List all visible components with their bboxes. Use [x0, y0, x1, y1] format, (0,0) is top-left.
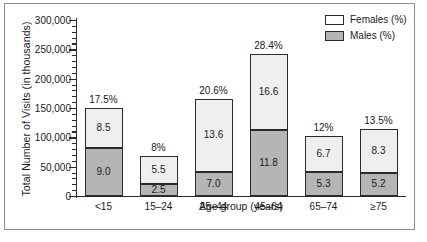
- x-axis-line: [76, 196, 406, 197]
- legend-item-label: Males (%): [350, 30, 395, 41]
- y-axis-tick-label: 100,000: [20, 132, 71, 143]
- stacked-bar[interactable]: 2.55.5: [140, 156, 178, 196]
- y-axis-minor-tick: [72, 73, 76, 74]
- y-axis-major-tick: [69, 20, 76, 21]
- y-axis-tick-label: 0: [20, 191, 71, 202]
- bar-segment-value-females: 8.5: [97, 123, 111, 133]
- y-axis-minor-tick: [72, 85, 76, 86]
- y-axis-tick-labels: 300,000250,000200,000150,000100,00050,00…: [20, 0, 71, 242]
- figure: Total Number of Visits (in thousands) 30…: [0, 0, 427, 242]
- stacked-bar[interactable]: 7.013.6: [195, 99, 233, 196]
- y-axis-tick-label: 300,000: [20, 15, 71, 26]
- bar-group: 2.55.58%: [140, 20, 178, 196]
- bar-segment-value-males: 2.5: [152, 185, 166, 195]
- y-axis-minor-tick: [72, 96, 76, 97]
- y-axis-minor-tick: [72, 161, 76, 162]
- bar-segment-males[interactable]: 7.0: [195, 172, 233, 196]
- bar-segment-value-females: 8.3: [372, 146, 386, 156]
- bar-segment-females[interactable]: 5.5: [140, 156, 178, 184]
- y-axis-minor-tick: [72, 178, 76, 179]
- y-axis-minor-tick: [72, 131, 76, 132]
- bar-total-percent-label: 17.5%: [85, 94, 123, 105]
- bar-total-percent-label: 28.4%: [250, 40, 288, 51]
- bar-segment-females[interactable]: 8.3: [360, 129, 398, 173]
- y-axis-minor-tick: [72, 55, 76, 56]
- legend-item[interactable]: Males (%): [325, 29, 411, 42]
- bar-segment-value-females: 6.7: [317, 149, 331, 159]
- y-axis-minor-tick: [72, 184, 76, 185]
- y-axis-major-tick: [69, 79, 76, 80]
- stacked-bar[interactable]: 5.28.3: [360, 129, 398, 196]
- bar-segment-males[interactable]: 5.2: [360, 173, 398, 196]
- y-axis-minor-tick: [72, 120, 76, 121]
- y-axis-major-tick: [69, 196, 76, 197]
- bar-segment-value-males: 5.3: [317, 179, 331, 189]
- y-axis-minor-tick: [72, 155, 76, 156]
- bar-segment-females[interactable]: 13.6: [195, 99, 233, 172]
- y-axis-tick-label: 50,000: [20, 161, 71, 172]
- bar-group: 5.28.313.5%: [360, 20, 398, 196]
- bar-segment-females[interactable]: 8.5: [85, 108, 123, 148]
- y-axis-major-tick: [69, 49, 76, 50]
- bar-segment-value-females: 16.6: [259, 87, 278, 97]
- y-axis-line: [76, 18, 77, 198]
- y-axis-minor-tick: [72, 43, 76, 44]
- y-axis-minor-tick: [72, 143, 76, 144]
- bar-group: 5.36.712%: [305, 20, 343, 196]
- bar-total-percent-label: 20.6%: [195, 85, 233, 96]
- bar-segment-females[interactable]: 6.7: [305, 136, 343, 172]
- bar-segment-value-males: 9.0: [97, 167, 111, 177]
- bar-total-percent-label: 13.5%: [360, 115, 398, 126]
- bar-segment-males[interactable]: 9.0: [85, 148, 123, 196]
- y-axis-minor-tick: [72, 26, 76, 27]
- stacked-bar[interactable]: 5.36.7: [305, 136, 343, 196]
- bar-total-percent-label: 8%: [140, 142, 178, 153]
- bar-segment-males[interactable]: 5.3: [305, 172, 343, 196]
- bar-group: 7.013.620.6%: [195, 20, 233, 196]
- bar-group: 11.816.628.4%: [250, 20, 288, 196]
- bar-segment-value-females: 13.6: [204, 130, 223, 140]
- y-axis-minor-tick: [72, 90, 76, 91]
- bar-group: 9.08.517.5%: [85, 20, 123, 196]
- y-axis-tick-label: 150,000: [20, 103, 71, 114]
- y-axis-minor-tick: [72, 149, 76, 150]
- bar-segment-value-females: 5.5: [152, 165, 166, 175]
- y-axis-minor-tick: [72, 61, 76, 62]
- y-axis-minor-tick: [72, 190, 76, 191]
- bar-total-percent-label: 12%: [305, 122, 343, 133]
- y-axis-tick-label: 250,000: [20, 44, 71, 55]
- y-axis-minor-tick: [72, 126, 76, 127]
- stacked-bar[interactable]: 9.08.5: [85, 108, 123, 196]
- x-axis-title: Age group (years): [76, 200, 406, 212]
- gray-square-icon: [325, 31, 344, 41]
- y-axis-minor-tick: [72, 67, 76, 68]
- y-axis-major-tick: [69, 167, 76, 168]
- y-axis-minor-tick: [72, 114, 76, 115]
- bar-segment-males[interactable]: 11.8: [250, 130, 288, 196]
- y-axis-major-tick: [69, 137, 76, 138]
- bar-segment-females[interactable]: 16.6: [250, 54, 288, 130]
- bar-segment-males[interactable]: 2.5: [140, 184, 178, 196]
- y-axis-minor-tick: [72, 32, 76, 33]
- legend-item-label: Females (%): [350, 14, 407, 25]
- white-square-icon: [325, 15, 344, 25]
- legend: Females (%)Males (%): [325, 13, 411, 45]
- plot-area: 9.08.517.5%2.55.58%7.013.620.6%11.816.62…: [76, 20, 406, 196]
- bar-segment-value-males: 11.8: [259, 158, 278, 168]
- legend-item[interactable]: Females (%): [325, 13, 411, 26]
- y-axis-minor-tick: [72, 38, 76, 39]
- bar-segment-value-males: 7.0: [207, 179, 221, 189]
- y-axis-minor-tick: [72, 102, 76, 103]
- bar-segment-value-males: 5.2: [372, 179, 386, 189]
- y-axis-minor-tick: [72, 173, 76, 174]
- y-axis-major-tick: [69, 108, 76, 109]
- y-axis-tick-label: 200,000: [20, 73, 71, 84]
- stacked-bar[interactable]: 11.816.6: [250, 54, 288, 196]
